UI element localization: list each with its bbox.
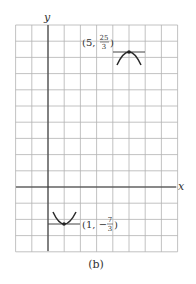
max-vertex-group: (5, 25 3 ) xyxy=(82,34,145,65)
min-label-open: (1, − xyxy=(82,219,107,230)
y-axis-label: y xyxy=(43,11,51,24)
figure-caption: (b) xyxy=(88,258,104,271)
min-vertex-dot xyxy=(62,222,66,226)
min-label-num: 7 xyxy=(108,216,112,224)
max-label-num: 25 xyxy=(100,34,109,42)
min-vertex-group: (1, − 7 3 ) xyxy=(48,212,118,233)
max-vertex-dot xyxy=(127,50,131,54)
min-label-close: ) xyxy=(114,219,118,230)
min-label-den: 3 xyxy=(108,225,112,233)
grid xyxy=(16,25,178,252)
x-axis-label: x xyxy=(178,180,185,193)
max-label-open: (5, xyxy=(82,37,95,48)
max-label-den: 3 xyxy=(102,43,106,51)
max-label-close: ) xyxy=(110,37,114,48)
graph-figure: x y (5, 25 3 ) (1, − 7 3 ) (b) xyxy=(0,0,196,284)
